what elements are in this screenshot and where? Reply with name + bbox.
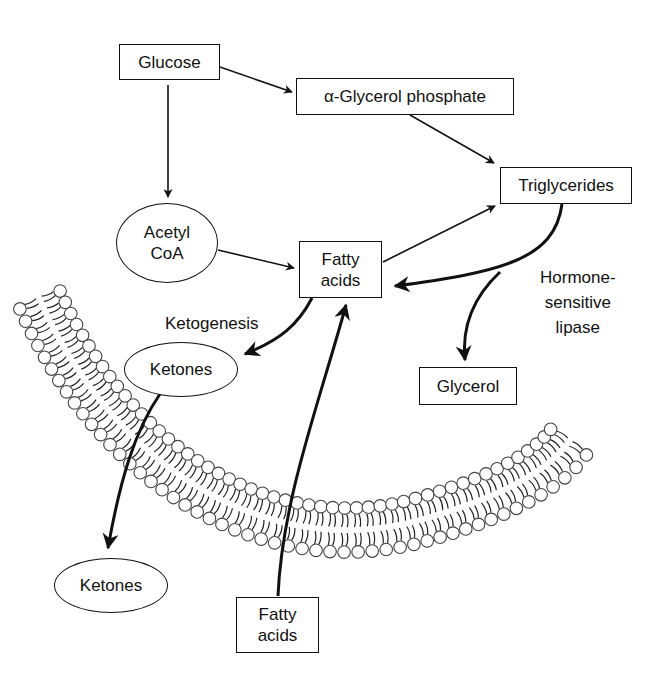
label-hormone-sensitive-lipase: Hormone- sensitive lipase — [540, 265, 616, 340]
arrow-triglycerides-to-glycerol — [464, 272, 500, 360]
node-acetyl-coa: Acetyl CoA — [116, 203, 218, 283]
arrow-triglycerides-to-fatty-acids — [395, 204, 562, 286]
node-fatty-acids-inner: Fatty acids — [299, 241, 382, 298]
arrow-fatty-acids-to-triglycerides — [383, 206, 495, 262]
node-glycerol-phosphate: α-Glycerol phosphate — [296, 78, 514, 115]
node-glucose: Glucose — [119, 44, 220, 80]
node-ketones-inner: Ketones — [124, 342, 238, 397]
label-ketogenesis: Ketogenesis — [165, 314, 259, 334]
node-ketones-outer: Ketones — [54, 558, 168, 613]
node-glycerol: Glycerol — [419, 367, 517, 405]
node-triglycerides: Triglycerides — [500, 167, 632, 204]
node-fatty-acids-outer: Fatty acids — [236, 597, 319, 653]
arrow-glycerol-phosphate-to-triglycerides — [410, 115, 494, 163]
arrow-glucose-to-glycerol-phosphate — [220, 67, 292, 92]
arrow-acetyl-coa-to-fatty-acids — [218, 250, 294, 268]
cell-membrane — [14, 285, 593, 559]
